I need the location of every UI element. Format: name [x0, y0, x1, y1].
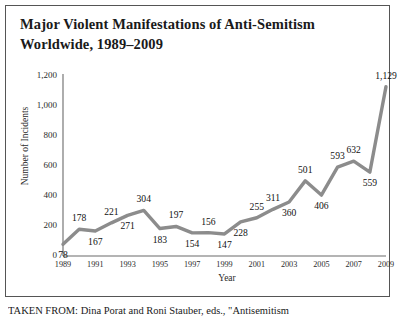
data-point-label: 1,129 [366, 70, 402, 81]
data-point-label: 167 [75, 236, 115, 247]
data-point-label: 501 [285, 164, 325, 175]
data-point-label: 271 [108, 220, 148, 231]
data-point-label: 156 [188, 216, 228, 227]
y-axis-tick-label: 200 [15, 220, 57, 230]
data-point-label: 559 [350, 177, 390, 188]
y-axis-tick-label: 1,200 [15, 70, 57, 80]
x-axis-tick-label: 2009 [366, 260, 402, 269]
source-caption: TAKEN FROM: Dina Porat and Roni Stauber,… [8, 305, 397, 316]
data-point-label: 147 [205, 239, 245, 250]
y-axis-tick-label: 1,000 [15, 100, 57, 110]
chart-plot-area: Number of Incidents Year 02004006008001,… [6, 6, 391, 298]
y-axis-tick-label: 600 [15, 160, 57, 170]
data-point-label: 406 [301, 200, 341, 211]
data-point-label: 311 [253, 192, 293, 203]
data-point-label: 304 [124, 193, 164, 204]
data-point-label: 221 [91, 206, 131, 217]
y-axis-tick-label: 800 [15, 130, 57, 140]
x-axis-label: Year [63, 273, 391, 283]
figure-box: Major Violent Manifestations of Anti-Sem… [5, 5, 390, 297]
data-point-label: 78 [43, 249, 83, 260]
data-point-label: 632 [334, 144, 374, 155]
data-point-label: 228 [221, 227, 261, 238]
y-axis-tick-label: 400 [15, 190, 57, 200]
